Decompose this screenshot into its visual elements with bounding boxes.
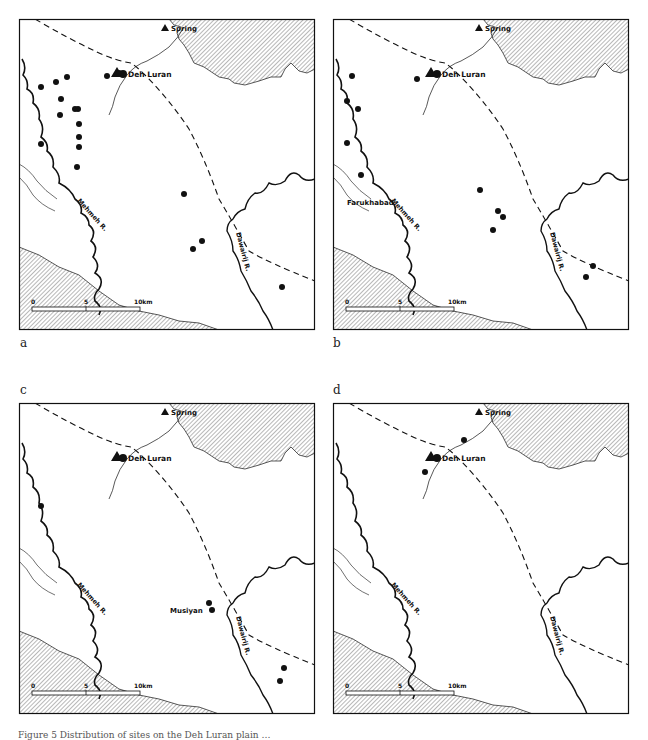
panel-letter-a: a [20, 336, 27, 350]
site-dot [104, 73, 110, 79]
scale-tick-10km: 10km [134, 682, 153, 689]
site-dot [358, 172, 364, 178]
label-spring: Spring [171, 25, 197, 33]
scale-tick-5: 5 [84, 682, 88, 689]
site-dot [53, 79, 59, 85]
label-deh-luran: Deh Luran [442, 70, 485, 79]
site-dot [490, 227, 496, 233]
site-dot [279, 284, 285, 290]
site-dot [277, 678, 283, 684]
site-dots [38, 503, 287, 684]
scale-tick-10km: 10km [134, 298, 153, 305]
label-deh-luran: Deh Luran [442, 454, 485, 463]
site-dot [75, 106, 81, 112]
spring-triangle [475, 408, 483, 415]
site-dot [74, 164, 80, 170]
site-dot [583, 274, 589, 280]
deh-luran-dot [433, 70, 441, 78]
spring-triangle [161, 24, 169, 31]
site-dot [38, 503, 44, 509]
site-dot [76, 134, 82, 140]
scale-tick-5: 5 [398, 298, 402, 305]
site-dot [206, 600, 212, 606]
site-dot [349, 73, 355, 79]
map-panel-d: Deh Luran Spring Mehmeh R. Dawairij R. 0… [333, 403, 629, 714]
hills-southwest [333, 247, 533, 330]
site-label-musiyan: Musiyan [170, 607, 203, 615]
scale-tick-0: 0 [345, 298, 349, 305]
figure-caption: Figure 5 Distribution of sites on the De… [18, 730, 270, 740]
label-spring: Spring [485, 409, 511, 417]
site-dot [76, 121, 82, 127]
scale-tick-10km: 10km [448, 682, 467, 689]
spring-triangle [475, 24, 483, 31]
label-deh-luran: Deh Luran [128, 70, 171, 79]
map-panel-a: Deh Luran Spring Mehmeh R. Dawairij R. 0… [19, 19, 315, 330]
site-dot [116, 70, 122, 76]
deh-luran-dot [119, 454, 127, 462]
secondary-channel [333, 548, 371, 595]
site-dot [344, 140, 350, 146]
spring-triangle [161, 408, 169, 415]
scale-tick-0: 0 [345, 682, 349, 689]
site-dot [38, 84, 44, 90]
site-dot [57, 112, 63, 118]
label-spring: Spring [171, 409, 197, 417]
panel-letter-b: b [333, 336, 341, 350]
site-dot [190, 246, 196, 252]
site-label-farukhabad: Farukhabad [347, 199, 394, 207]
site-dot [461, 437, 467, 443]
panel-letter-d: d [333, 383, 341, 397]
map-panel-c: Deh Luran Spring Mehmeh R. Dawairij R. M… [19, 403, 315, 714]
site-dot [414, 76, 420, 82]
site-dot [181, 191, 187, 197]
secondary-channel [19, 548, 57, 595]
site-dot [477, 187, 483, 193]
label-deh-luran: Deh Luran [128, 454, 171, 463]
map-panel-b: Deh Luran Spring Mehmeh R. Dawairij R. F… [333, 19, 629, 330]
label-spring: Spring [485, 25, 511, 33]
site-dot [495, 208, 501, 214]
site-dot [76, 144, 82, 150]
site-dot [500, 214, 506, 220]
site-dot [64, 74, 70, 80]
hills-southwest [19, 247, 219, 330]
deh-luran-dot [433, 454, 441, 462]
site-dot [58, 96, 64, 102]
site-dot [209, 607, 215, 613]
site-dot [590, 263, 596, 269]
site-dot [199, 238, 205, 244]
scale-tick-0: 0 [31, 682, 35, 689]
site-dot [422, 469, 428, 475]
hills-southwest [19, 631, 219, 714]
hills-southwest [333, 631, 533, 714]
scale-tick-5: 5 [398, 682, 402, 689]
site-dot [344, 98, 350, 104]
site-dot [281, 665, 287, 671]
secondary-channel [19, 164, 57, 211]
site-dot [38, 141, 44, 147]
scale-tick-5: 5 [84, 298, 88, 305]
panel-letter-c: c [20, 383, 27, 397]
scale-tick-10km: 10km [448, 298, 467, 305]
scale-tick-0: 0 [31, 298, 35, 305]
site-dot [355, 106, 361, 112]
